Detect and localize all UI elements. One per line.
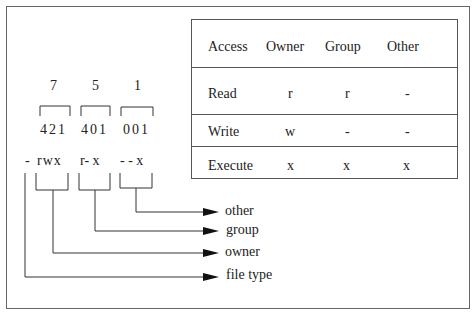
connector-lines xyxy=(0,0,474,315)
